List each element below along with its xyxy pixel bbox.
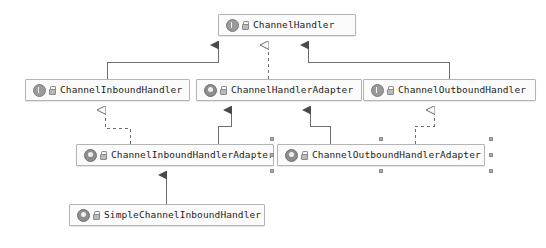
node-channel-handler-adapter[interactable]: ChannelHandlerAdapter — [196, 79, 362, 101]
interface-icon — [33, 84, 46, 97]
uml-diagram-canvas[interactable]: ChannelHandler ChannelInboundHandler Cha… — [0, 0, 546, 248]
selection-handle-sw[interactable] — [270, 169, 274, 173]
node-channel-outbound-handler-adapter[interactable]: ChannelOutboundHandlerAdapter — [277, 144, 485, 166]
edge-outbound-adapter-to-outbound[interactable] — [415, 110, 434, 144]
class-icon — [84, 149, 97, 162]
lock-icon — [301, 151, 308, 160]
edge-outbound-to-handler[interactable] — [308, 45, 449, 79]
lock-icon — [242, 21, 249, 30]
lock-icon — [220, 86, 227, 95]
lock-icon — [93, 211, 100, 220]
edge-outbound-adapter-to-handler-adapter[interactable] — [310, 110, 330, 144]
node-channel-inbound-handler[interactable]: ChannelInboundHandler — [25, 79, 190, 101]
class-icon — [285, 149, 298, 162]
selection-handle-n[interactable] — [379, 137, 383, 141]
edge-inbound-to-handler[interactable] — [107, 45, 218, 79]
selection-handle-w[interactable] — [270, 153, 274, 157]
lock-icon — [387, 86, 394, 95]
node-label: SimpleChannelInboundHandler — [104, 204, 261, 226]
lock-icon — [100, 151, 107, 160]
selection-handle-se[interactable] — [489, 169, 493, 173]
edge-inbound-adapter-to-inbound[interactable] — [105, 110, 130, 144]
node-label: ChannelInboundHandler — [60, 79, 182, 101]
lock-icon — [49, 86, 56, 95]
selection-handle-s[interactable] — [379, 169, 383, 173]
node-label: ChannelOutboundHandlerAdapter — [312, 144, 481, 166]
node-channel-handler[interactable]: ChannelHandler — [218, 14, 356, 36]
selection-handle-e[interactable] — [489, 153, 493, 157]
node-label: ChannelHandlerAdapter — [231, 79, 353, 101]
class-icon — [204, 84, 217, 97]
interface-icon — [371, 84, 384, 97]
edge-inbound-adapter-to-handler-adapter[interactable] — [218, 110, 231, 144]
node-simple-channel-inbound-handler[interactable]: SimpleChannelInboundHandler — [69, 204, 265, 226]
selection-handle-ne[interactable] — [489, 137, 493, 141]
interface-icon — [226, 19, 239, 32]
node-label: ChannelOutboundHandler — [398, 79, 526, 101]
class-icon — [77, 209, 90, 222]
node-channel-outbound-handler[interactable]: ChannelOutboundHandler — [363, 79, 536, 101]
node-channel-inbound-handler-adapter[interactable]: ChannelInboundHandlerAdapter — [76, 144, 274, 166]
node-label: ChannelInboundHandlerAdapter — [111, 144, 274, 166]
selection-handle-nw[interactable] — [270, 137, 274, 141]
node-label: ChannelHandler — [253, 14, 334, 36]
